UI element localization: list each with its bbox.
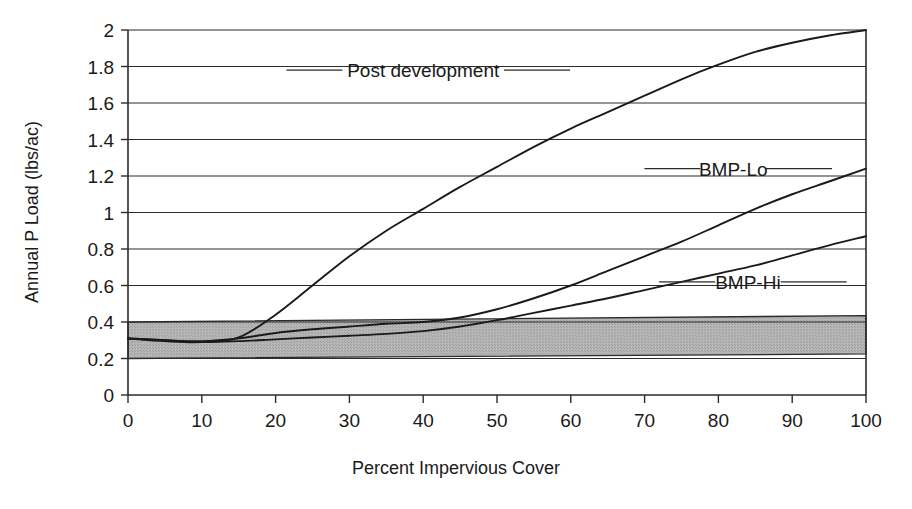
x-tick-label-90: 90 — [782, 410, 803, 431]
x-tick-label-60: 60 — [560, 410, 581, 431]
series-label-post-development: Post development — [347, 60, 500, 81]
y-tick-label-0: 0 — [103, 385, 114, 406]
x-tick-label-70: 70 — [634, 410, 655, 431]
x-tick-label-100: 100 — [850, 410, 882, 431]
x-tick-label-10: 10 — [191, 410, 212, 431]
y-tick-label-0.8: 0.8 — [88, 239, 114, 260]
y-tick-label-0.6: 0.6 — [88, 276, 114, 297]
x-tick-label-20: 20 — [265, 410, 286, 431]
series-label-bmp-hi: BMP-Hi — [715, 272, 780, 293]
y-tick-label-0.2: 0.2 — [88, 349, 114, 370]
y-tick-label-1: 1 — [103, 203, 114, 224]
y-tick-label-1.6: 1.6 — [88, 93, 114, 114]
series-label-bmp-lo: BMP-Lo — [699, 159, 768, 180]
y-tick-label-1.8: 1.8 — [88, 57, 114, 78]
y-tick-label-0.4: 0.4 — [88, 312, 115, 333]
x-axis-title: Percent Impervious Cover — [352, 458, 560, 478]
chart-figure: 00.20.40.60.811.21.41.61.82 010203040506… — [0, 0, 912, 509]
y-axis-title: Annual P Load (lbs/ac) — [22, 121, 42, 303]
x-tick-label-0: 0 — [123, 410, 134, 431]
x-tick-label-40: 40 — [413, 410, 434, 431]
x-tick-label-80: 80 — [708, 410, 729, 431]
y-tick-label-1.4: 1.4 — [88, 130, 115, 151]
y-tick-label-2: 2 — [103, 20, 114, 41]
x-tick-label-30: 30 — [339, 410, 360, 431]
annual-p-load-line-chart: 00.20.40.60.811.21.41.61.82 010203040506… — [0, 0, 912, 509]
y-tick-label-1.2: 1.2 — [88, 166, 114, 187]
x-tick-label-50: 50 — [486, 410, 507, 431]
